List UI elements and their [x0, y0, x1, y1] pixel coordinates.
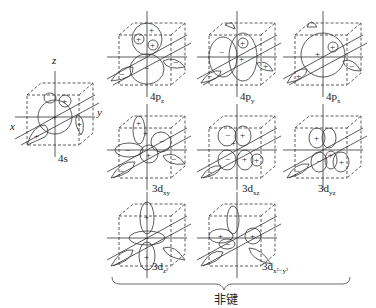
axis-label-y: y — [97, 106, 102, 118]
svg-text:+: + — [242, 154, 247, 164]
svg-text:+: + — [330, 42, 335, 52]
nonbonding-group-label: 非键 — [214, 290, 238, 307]
svg-text:−: − — [171, 154, 176, 164]
svg-text:+: + — [146, 150, 151, 160]
svg-text:+: + — [218, 231, 223, 241]
svg-text:+: + — [339, 157, 344, 167]
axis-label-x: x — [10, 120, 15, 132]
orbital-4py: ++− −+ — [197, 11, 281, 97]
svg-text:+: + — [52, 112, 57, 122]
label-4pz: 4pz — [150, 90, 164, 105]
svg-text:+: + — [150, 40, 155, 50]
svg-text:+: + — [296, 71, 301, 81]
svg-text:−: − — [119, 69, 124, 79]
svg-text:+: + — [250, 231, 255, 241]
label-3dyz: 3dyz — [318, 182, 336, 197]
svg-text:+: + — [62, 96, 67, 106]
orbital-diagram-canvas: ++ ++ +++ −−− ++− −+ — [0, 0, 376, 308]
svg-text:+: + — [240, 38, 245, 48]
svg-text:−: − — [125, 145, 130, 155]
svg-text:−: − — [119, 166, 124, 176]
svg-text:−: − — [159, 136, 164, 146]
svg-text:−: − — [225, 154, 230, 164]
orbital-3dxy: ++− −+−− — [107, 104, 191, 190]
label-4s: 4s — [58, 152, 68, 164]
label-3dz2: 3dz² — [152, 260, 168, 275]
axis-label-z: z — [52, 54, 56, 66]
orbital-4pz: +++ −−− — [107, 11, 191, 97]
svg-text:−: − — [144, 63, 149, 73]
svg-text:−: − — [173, 57, 178, 67]
svg-text:+: + — [231, 138, 236, 148]
label-4px: 4px — [326, 90, 341, 105]
label-3dxz: 3dxz — [242, 182, 260, 197]
svg-text:+: + — [239, 54, 244, 64]
svg-text:+: + — [149, 25, 154, 35]
svg-text:−: − — [316, 156, 321, 166]
orbital-3dz2: +−+ — [107, 192, 191, 278]
svg-text:+: + — [143, 128, 148, 138]
svg-text:+: + — [144, 252, 149, 262]
svg-text:−: − — [225, 130, 230, 140]
svg-text:+: + — [263, 61, 268, 71]
svg-text:+: + — [144, 212, 149, 222]
svg-text:+: + — [315, 49, 320, 59]
group-brace — [112, 277, 350, 290]
svg-text:−: − — [219, 47, 224, 57]
svg-text:−: − — [225, 239, 230, 249]
orbital-4px: ++ +− — [283, 11, 367, 97]
svg-text:+: + — [136, 34, 141, 44]
svg-text:+: + — [328, 150, 333, 160]
orbital-3dxz: −++ −++− — [197, 104, 281, 190]
svg-text:+: + — [314, 133, 319, 143]
orbital-4s: ++ ++ — [15, 71, 99, 157]
label-3dx2-y2: 3dx²−y² — [262, 260, 288, 275]
svg-text:−: − — [207, 71, 212, 81]
orbital-3dyz: ++− +− — [283, 104, 367, 190]
svg-text:+: + — [34, 131, 39, 141]
svg-text:−: − — [207, 167, 212, 177]
svg-text:+: + — [136, 118, 141, 128]
svg-text:−: − — [349, 61, 354, 71]
svg-text:+: + — [254, 155, 259, 165]
svg-text:−: − — [144, 233, 149, 243]
label-4py: 4py — [240, 90, 255, 105]
svg-text:−: − — [295, 166, 300, 176]
label-3dxy: 3dxy — [152, 182, 170, 197]
svg-text:+: + — [77, 119, 82, 129]
svg-text:+: + — [240, 130, 245, 140]
